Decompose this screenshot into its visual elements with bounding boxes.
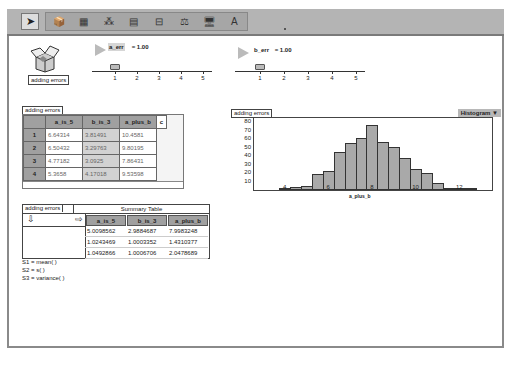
column-header-a-is-5[interactable]: a_is_5 [46,116,83,129]
box-icon: 📦 [53,16,65,27]
tick [332,71,333,74]
tick [260,71,261,74]
slider-thumb[interactable] [110,64,120,70]
histogram-bar[interactable] [465,188,477,190]
summary-cell: 7.9983248 [167,226,208,237]
play-icon[interactable] [238,47,249,59]
summary-cell: 1.0243469 [85,237,126,248]
y-tick-label: 30 [237,161,251,167]
formula-s3[interactable]: S3 = variance( ) [22,274,65,282]
tick-label: 1 [110,75,120,81]
tick-label: 4 [327,75,337,81]
summary-row-drop[interactable]: ⇩ ⇨ [23,214,86,258]
formula-s2[interactable]: S2 = s( ) [22,266,45,274]
row-index: 1 [24,129,46,142]
cell[interactable]: 9.80195 [120,142,157,155]
tick-label: 5 [351,75,361,81]
summary-table-tool-button[interactable]: ▤ [124,14,144,29]
case-table-tool-button[interactable]: ▦ [74,14,94,29]
scales-icon: ⚖ [180,16,189,27]
graph-tool-button[interactable]: ⁂ [99,14,119,29]
graph-type-menu[interactable]: Histogram ▼ [458,109,501,117]
computer-tool-button[interactable]: 🖥 [199,14,219,29]
cell[interactable]: 3.29763 [83,142,120,155]
column-header-b-is-3[interactable]: b_is_3 [83,116,120,129]
slider-tool-button[interactable]: ⊟ [149,14,169,29]
summary-tag[interactable]: adding errors [23,205,63,212]
cell[interactable]: 6.64314 [46,129,83,142]
toolbar: ➤ 📦 ▦ ⁂ ▤ ⊟ ⚖ 🖥 A [7,9,504,36]
computer-icon: 🖥 [203,16,216,27]
slider-thumb[interactable] [255,64,265,70]
y-tick-label: 70 [237,127,251,133]
slider-a-err[interactable]: a_err = 1.00 1 2 3 4 5 [80,40,220,90]
cell[interactable]: 10.4581 [120,129,157,142]
slider-track[interactable] [92,71,212,72]
document-tool-button[interactable]: 📦 [49,14,69,29]
slider-value: = 1.00 [273,46,292,54]
x-axis-label[interactable]: a_plus_b [349,193,371,199]
y-tick-label: 50 [237,144,251,150]
table-row[interactable]: 1 6.64314 3.81491 10.4581 [24,129,167,142]
column-header-a-plus-b[interactable]: a_plus_b [120,116,157,129]
summary-cell: 1.0006706 [126,248,167,259]
text-tool-button[interactable]: A [224,14,244,29]
y-tick-label: 80 [237,118,251,124]
summary-icon: ▤ [129,16,138,27]
cell[interactable]: 7.86431 [120,155,157,168]
table-row[interactable]: 2 6.50432 3.29763 9.80195 [24,142,167,155]
column-header-new[interactable]: c [157,116,167,129]
cell[interactable]: 3.81491 [83,129,120,142]
plot-area [253,117,493,191]
slider-track[interactable] [235,71,365,72]
summary-table[interactable]: adding errors Summary Table ⇩ ⇨ a_is_5 5… [22,204,210,259]
y-tick-label: 20 [237,169,251,175]
summary-cell: 5.0098562 [85,226,126,237]
open-box-icon[interactable] [30,45,60,73]
pointer-icon: ➤ [26,15,35,28]
column-drop-bar[interactable]: ⇩ ⇨ [23,214,85,227]
x-tick-label: 4 [278,184,292,190]
histogram-graph[interactable]: adding errors Histogram ▼ a_plus_b 10203… [231,109,501,199]
cell[interactable]: 4.17018 [83,168,120,181]
slider-b-err[interactable]: b_err = 1.00 1 2 3 4 5 [223,40,363,90]
table-row[interactable]: 3 4.77182 3.0925 7.86431 [24,155,167,168]
tick [115,71,116,74]
summary-cell: 2.0478689 [167,248,208,259]
cell[interactable]: 6.50432 [46,142,83,155]
cell[interactable]: 9.53598 [120,168,157,181]
scales-tool-button[interactable]: ⚖ [174,14,194,29]
table-row[interactable]: 4 5.3658 4.17018 9.53598 [24,168,167,181]
tick-label: 5 [198,75,208,81]
x-tick-label: 10 [409,184,423,190]
play-icon[interactable] [95,44,106,56]
horizontal-scrollbar[interactable] [23,181,183,188]
case-table[interactable]: a_is_5 b_is_3 a_plus_b c 1 6.64314 3.814… [22,114,184,189]
case-table-grid: a_is_5 b_is_3 a_plus_b c 1 6.64314 3.814… [23,115,167,181]
scatter-icon: ⁂ [104,16,114,27]
x-tick-label: 12 [452,184,466,190]
summary-column-header[interactable]: a_plus_b [168,215,208,226]
summary-column-header[interactable]: b_is_3 [127,215,167,226]
table-icon: ▦ [79,16,88,27]
summary-column: a_is_5 5.0098562 1.0243469 1.0492866 [85,214,126,259]
tick-label: 4 [176,75,186,81]
down-arrow-icon: ⇩ [27,214,35,225]
document-label[interactable]: adding errors [28,75,69,85]
pointer-tool-button[interactable]: ➤ [21,13,39,30]
y-tick-label: 10 [237,178,251,184]
tick [203,71,204,74]
cell[interactable]: 5.3658 [46,168,83,181]
right-arrow-icon: ⇨ [75,214,83,225]
tick-label: 3 [303,75,313,81]
summary-column-header[interactable]: a_is_5 [86,215,126,226]
tool-shelf: 📦 ▦ ⁂ ▤ ⊟ ⚖ 🖥 A [45,12,248,31]
tick-label: 2 [279,75,289,81]
summary-cell: 1.4310377 [167,237,208,248]
cell[interactable]: 4.77182 [46,155,83,168]
formula-s1[interactable]: S1 = mean( ) [22,258,57,266]
x-tick-label: 6 [321,184,335,190]
tick [159,71,160,74]
cell[interactable]: 3.0925 [83,155,120,168]
slider-variable-name: a_err [108,43,125,51]
